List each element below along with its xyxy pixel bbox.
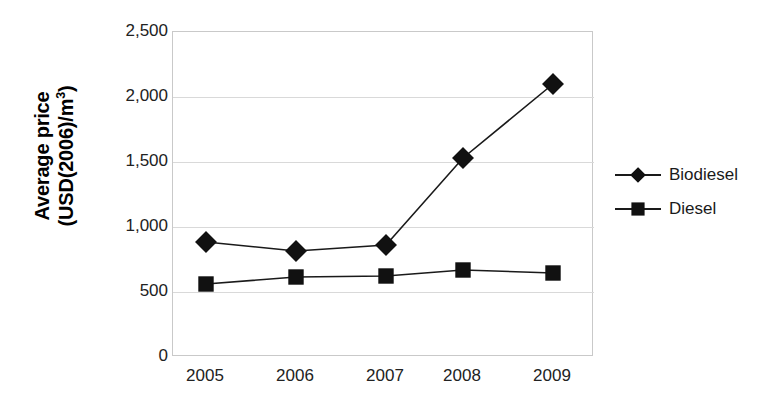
- y-axis-title-superscript: 3: [54, 92, 68, 99]
- y-axis-title-line1: Average price: [31, 92, 55, 221]
- square-marker-icon: [615, 199, 661, 219]
- series-markers-biodiesel: [196, 74, 563, 261]
- series-line-biodiesel: [206, 84, 553, 251]
- gridlines: [173, 97, 594, 292]
- data-point-biodiesel-2006: [286, 241, 306, 261]
- x-tick-label-2006: 2006: [250, 366, 340, 386]
- line-chart: Average price (USD(2006)/m3) 0 500 1,000…: [0, 0, 763, 419]
- y-tick-label-2500: 2,500: [68, 21, 168, 41]
- y-tick-label-1500: 1,500: [68, 151, 168, 171]
- plot-area: [172, 31, 593, 356]
- plot-svg: [173, 32, 594, 357]
- series-markers-diesel: [199, 263, 560, 291]
- x-tick-label-2005: 2005: [160, 366, 250, 386]
- y-tick-label-1000: 1,000: [68, 216, 168, 236]
- legend-swatch-biodiesel: [615, 165, 661, 185]
- data-point-diesel-2006: [289, 270, 303, 284]
- y-tick-label-0: 0: [68, 346, 168, 366]
- x-tick-label-2008: 2008: [417, 366, 507, 386]
- diamond-marker-icon: [615, 165, 661, 185]
- chart-legend: Biodiesel Diesel: [615, 158, 763, 226]
- y-tick-label-2000: 2,000: [68, 86, 168, 106]
- data-point-diesel-2007: [379, 269, 393, 283]
- data-point-diesel-2009: [546, 266, 560, 280]
- legend-item-biodiesel[interactable]: Biodiesel: [615, 158, 763, 192]
- data-point-diesel-2008: [456, 263, 470, 277]
- legend-label-diesel: Diesel: [661, 199, 716, 219]
- legend-swatch-diesel: [615, 199, 661, 219]
- legend-label-biodiesel: Biodiesel: [661, 165, 738, 185]
- data-point-diesel-2005: [199, 277, 213, 291]
- x-tick-label-2009: 2009: [507, 366, 597, 386]
- legend-item-diesel[interactable]: Diesel: [615, 192, 763, 226]
- y-tick-label-500: 500: [68, 281, 168, 301]
- data-point-biodiesel-2009: [543, 74, 563, 94]
- data-point-biodiesel-2005: [196, 232, 216, 252]
